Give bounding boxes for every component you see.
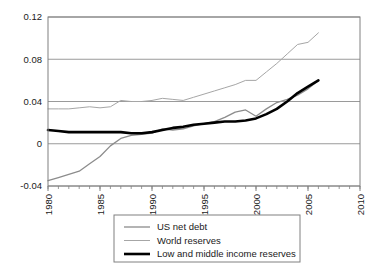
legend-label: US net debt: [157, 221, 208, 232]
chart-legend: US net debtWorld reservesLow and middle …: [114, 215, 300, 262]
y-tick-label: 0.12: [24, 11, 43, 22]
y-tick-label: 0: [37, 138, 42, 149]
x-tick-label: 1985: [95, 194, 106, 215]
y-tick-label: -0.04: [20, 180, 42, 191]
legend-label: Low and middle income reserves: [157, 248, 296, 259]
x-tick-label: 2000: [251, 194, 262, 215]
x-tick-label: 2010: [355, 194, 366, 215]
x-tick-label: 2005: [303, 194, 314, 215]
legend-label: World reserves: [157, 235, 221, 246]
y-tick-label: 0.04: [24, 96, 43, 107]
x-tick-label: 1980: [43, 194, 54, 215]
line-chart: -0.0400.040.080.12 198019851990199520002…: [0, 0, 379, 277]
x-tick-label: 1995: [199, 194, 210, 215]
x-tick-label: 1990: [147, 194, 158, 215]
y-tick-label: 0.08: [24, 54, 43, 65]
chart-figure: -0.0400.040.080.12 198019851990199520002…: [0, 0, 379, 277]
